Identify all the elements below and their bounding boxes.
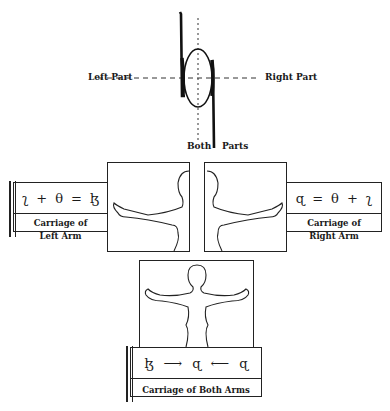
left-arm-caption: Carriage of Left Arm [14, 214, 107, 243]
left-arm-figure-frame [107, 162, 190, 252]
card-spine [9, 181, 16, 237]
equation-operator: + [36, 191, 47, 206]
equation-operator: = [312, 191, 323, 206]
left-arm-card: ʅ + θ = ɮ Carriage of Left Arm [13, 182, 108, 232]
equation-symbol: ɋ [239, 356, 247, 371]
equation-operator: + [347, 191, 358, 206]
glyph-symbol-icon [0, 0, 390, 150]
caption-line: Carriage of [14, 217, 107, 230]
both-arms-figure-frame [139, 260, 254, 348]
equation-symbol: ʅ [366, 191, 372, 206]
left-arm-equation: ʅ + θ = ɮ [14, 183, 107, 214]
equation-symbol: ɮ [144, 356, 153, 371]
both-arms-equation: ɮ ⟶ ɋ ⟵ ɋ [131, 348, 261, 379]
right-arm-figure-frame [204, 162, 287, 252]
right-arm-card: ɋ = θ + ʅ Carriage of Right Arm [286, 182, 382, 232]
figure-right-arm-icon [205, 163, 288, 253]
figure-both-arms-icon [140, 261, 255, 349]
equation-operator: = [71, 191, 82, 206]
both-arms-caption: Carriage of Both Arms [131, 379, 261, 397]
right-arm-caption: Carriage of Right Arm [287, 214, 381, 243]
equation-symbol: θ [55, 191, 63, 206]
caption-line: Right Arm [287, 230, 381, 243]
equation-symbol: ɋ [192, 356, 200, 371]
arrow-right-icon: ⟶ [164, 356, 183, 371]
figure-left-arm-icon [108, 163, 191, 253]
arrow-left-icon: ⟵ [211, 356, 230, 371]
axis-label-right: Right Part [265, 72, 317, 82]
equation-symbol: ɋ [296, 191, 304, 206]
equation-symbol: ɮ [90, 191, 99, 206]
card-spine [126, 346, 133, 402]
right-arm-equation: ɋ = θ + ʅ [287, 183, 381, 214]
equation-symbol: θ [331, 191, 339, 206]
equation-symbol: ʅ [22, 191, 28, 206]
caption-line: Carriage of [287, 217, 381, 230]
both-arms-card: ɮ ⟶ ɋ ⟵ ɋ Carriage of Both Arms [130, 347, 262, 397]
axis-label-bottom-left: Both [187, 141, 211, 151]
caption-line: Left Arm [14, 230, 107, 243]
axis-label-left: Left Part [88, 72, 132, 82]
axis-label-bottom-right: Parts [222, 141, 248, 151]
